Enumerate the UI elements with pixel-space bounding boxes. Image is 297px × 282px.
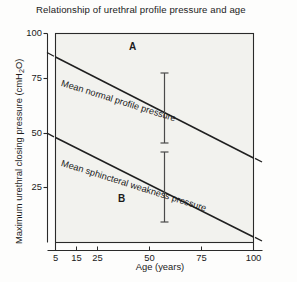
chart-figure: Relationship of urethral profile pressur… [0, 0, 297, 282]
plot-panel [56, 34, 254, 243]
x-axis-title: Age (years) [100, 261, 220, 272]
y-axis-title-subscript: 2 [17, 69, 26, 73]
chart-plot-svg [0, 0, 297, 282]
region-label-a: A [129, 41, 136, 52]
region-label-b: B [118, 193, 125, 204]
y-axis-title: Maximum urethral closing pressure (cmH2O… [13, 59, 24, 244]
series-dash-stub-right-weakness [255, 237, 262, 241]
x-tick-label-100: 100 [241, 252, 266, 263]
y-axis-title-prefix: Maximum urethral closing pressure (cmH [13, 73, 24, 244]
series-dash-stub-right-normal [255, 158, 262, 162]
y-axis-title-suffix: O) [13, 59, 24, 69]
y-tick-label-100: 100 [4, 27, 42, 38]
